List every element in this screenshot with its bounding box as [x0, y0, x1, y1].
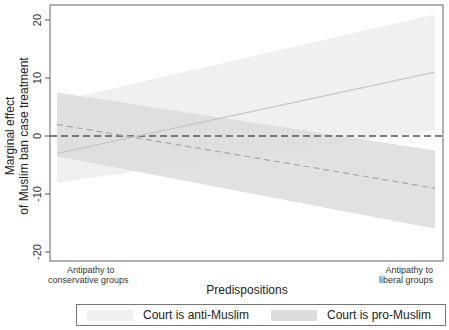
- legend-swatch-pro-muslim: [271, 310, 317, 321]
- x-annotation-right-line2: liberal groups: [379, 275, 434, 285]
- x-axis-title: Predispositions: [206, 283, 287, 297]
- y-axis: -20-1001020: [31, 14, 50, 260]
- y-tick-label: -10: [31, 186, 43, 202]
- legend-item-pro-muslim: Court is pro-Muslim: [261, 308, 445, 322]
- x-annotation-right-line1: Antipathy to: [385, 265, 433, 275]
- legend: Court is anti-Muslim Court is pro-Muslim: [76, 304, 446, 326]
- legend-label-anti-muslim: Court is anti-Muslim: [143, 308, 249, 322]
- y-tick-label: -20: [31, 244, 43, 260]
- legend-swatch-anti-muslim: [87, 310, 133, 321]
- legend-item-anti-muslim: Court is anti-Muslim: [77, 308, 261, 322]
- y-axis-title-line2: of Muslim ban case treatment: [17, 57, 31, 215]
- x-annotation-left-line1: Antipathy to: [67, 265, 115, 275]
- legend-label-pro-muslim: Court is pro-Muslim: [327, 308, 431, 322]
- marginal-effect-chart: -20-1001020 Marginal effect of Muslim ba…: [0, 0, 449, 300]
- plot-area: [50, 14, 443, 229]
- y-tick-label: 20: [31, 14, 43, 26]
- y-axis-title-line1: Marginal effect: [3, 96, 17, 175]
- y-tick-label: 0: [31, 133, 43, 139]
- y-tick-label: 10: [31, 72, 43, 84]
- x-annotation-left-line2: conservative groups: [48, 275, 129, 285]
